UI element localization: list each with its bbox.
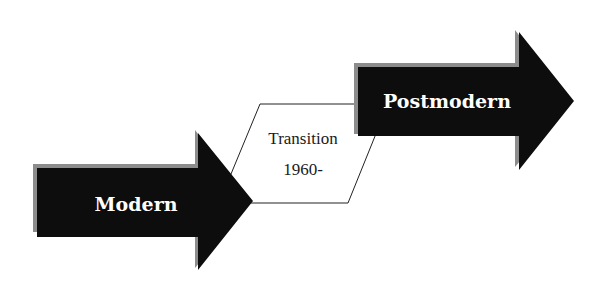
postmodern-label: Postmodern (383, 90, 511, 112)
transition-diagram: Modern Transition 1960- Postmodern (0, 0, 605, 289)
transition-year-label: 1960- (283, 160, 323, 179)
transition-label: Transition (268, 129, 338, 148)
modern-label: Modern (95, 193, 178, 215)
